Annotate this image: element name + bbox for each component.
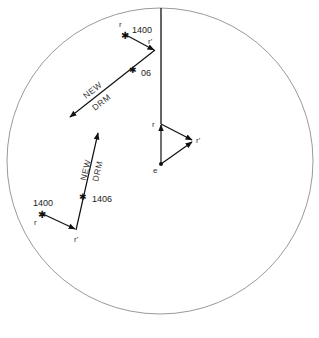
lower-label-r-prime: r' — [74, 235, 79, 244]
upper-star-marker: ✱ — [121, 30, 129, 41]
label-r: r — [152, 120, 155, 129]
lower-r-to-r-prime — [43, 214, 75, 229]
lower-label-time: 1400 — [33, 198, 53, 208]
lower-label-r: r — [34, 218, 37, 227]
lower-plot: ✱ 1400 r r' ✱ 1406 NEW DRM — [33, 133, 112, 244]
point-e — [159, 162, 163, 166]
radar-plot-diagram: r r' e ✱ r 1400 r' ✱ 06 NEW DRM ✱ 1400 r… — [0, 0, 319, 338]
label-r-prime: r' — [196, 136, 201, 145]
upper-new-drm-line — [70, 50, 155, 117]
upper-label-time: 1400 — [132, 25, 152, 35]
radar-circle — [7, 8, 313, 314]
vector-triangle: r r' e — [152, 120, 201, 175]
upper-label-tick: 06 — [141, 68, 151, 78]
lower-star-marker: ✱ — [38, 209, 46, 220]
upper-tick-marker: ✱ — [129, 65, 137, 75]
lower-tick-marker: ✱ — [79, 192, 87, 202]
lower-label-tick: 1406 — [92, 194, 112, 204]
upper-label-r: r — [119, 20, 122, 29]
vector-r-to-r-prime — [161, 124, 192, 140]
upper-label-r-prime: r' — [148, 37, 153, 46]
label-e: e — [153, 166, 158, 175]
vector-e-to-r-prime — [161, 142, 192, 164]
lower-drm-label-drm: DRM — [90, 160, 104, 183]
upper-plot: ✱ r 1400 r' ✱ 06 NEW DRM — [70, 20, 155, 117]
